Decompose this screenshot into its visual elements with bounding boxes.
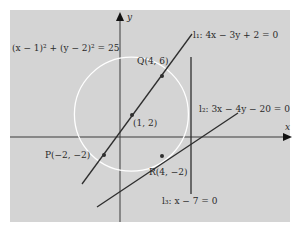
- point-p-label: P(−2, −2): [45, 150, 90, 160]
- point-q-label: Q(4, 6): [137, 56, 169, 66]
- point-r: [160, 154, 164, 158]
- circle-equation: (x − 1)² + (y − 2)² = 25: [12, 43, 120, 53]
- diagram-canvas: x y (x − 1)² + (y − 2)² = 25 Q(4, 6) (1,…: [0, 0, 295, 235]
- point-p: [102, 153, 106, 157]
- x-axis-label: x: [285, 122, 290, 132]
- point-r-label: R(4, −2): [149, 167, 188, 177]
- diagram-panel: [10, 10, 290, 222]
- y-axis-label: y: [126, 12, 133, 22]
- center-label: (1, 2): [133, 118, 157, 128]
- line-l1-label: l₁: 4x − 3y + 2 = 0: [193, 30, 279, 40]
- point-q: [160, 74, 164, 78]
- point-center: [130, 113, 134, 117]
- line-l3-label: l₃: x − 7 = 0: [162, 196, 218, 206]
- line-l2-label: l₂: 3x − 4y − 20 = 0: [199, 104, 290, 114]
